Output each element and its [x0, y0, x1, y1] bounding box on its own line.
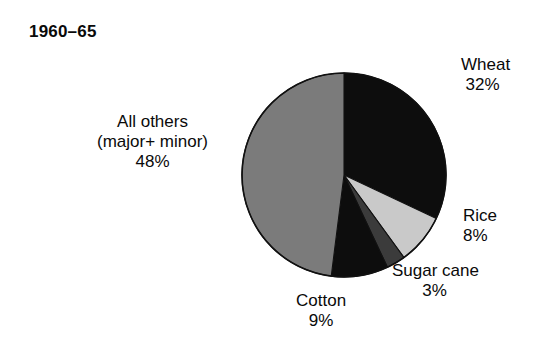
pie-chart-svg [241, 72, 447, 278]
slice-label-wheat: Wheat 32% [461, 55, 510, 95]
slice-label-wheat-name: Wheat [461, 55, 510, 75]
slice-label-sugar-cane: Sugar cane 3% [392, 261, 479, 301]
chart-title: 1960–65 [29, 22, 97, 42]
pie-slice-all-others-major-minor [242, 73, 344, 276]
slice-label-rice-name: Rice [463, 206, 498, 226]
slice-label-all-others: All others (major+ minor) 48% [65, 112, 240, 172]
slice-label-all-others-line2: (major+ minor) [65, 132, 240, 152]
slice-label-all-others-line1: All others [65, 112, 240, 132]
pie-chart-figure: 1960–65 Wheat 32% Rice 8% Sugar cane 3% … [0, 0, 552, 351]
slice-label-sugar-cane-pct: 3% [392, 281, 479, 301]
slice-label-rice-pct: 8% [463, 226, 498, 246]
slice-label-all-others-pct: 48% [65, 152, 240, 172]
slice-label-wheat-pct: 32% [461, 75, 510, 95]
slice-label-cotton: Cotton 9% [296, 291, 346, 331]
slice-label-rice: Rice 8% [463, 206, 498, 246]
pie-slice-group [242, 73, 446, 277]
slice-label-cotton-name: Cotton [296, 291, 346, 311]
pie-chart [241, 72, 447, 278]
slice-label-cotton-pct: 9% [296, 311, 346, 331]
slice-label-sugar-cane-name: Sugar cane [392, 261, 479, 281]
